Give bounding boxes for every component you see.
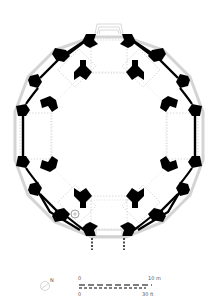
north-porch [95,24,123,34]
scale-metric-start: 0 [78,275,81,281]
north-label: N [50,277,54,283]
scale-bar: 0 10 m 0 30 ft [78,275,161,297]
scale-imperial-start: 0 [78,291,81,297]
outer-piers [16,34,202,236]
outer-wall [23,40,195,230]
floor-plan: N 0 10 m 0 30 ft [0,0,218,305]
entrance-posts [92,238,124,250]
outer-perimeter-guide [15,37,203,237]
south-entrance [96,230,122,236]
inner-piers [40,60,178,208]
scale-metric-end: 10 m [148,275,161,281]
scale-imperial-end: 30 ft [142,291,154,297]
stair-icon [71,210,79,218]
north-arrow-icon: N [41,277,55,291]
